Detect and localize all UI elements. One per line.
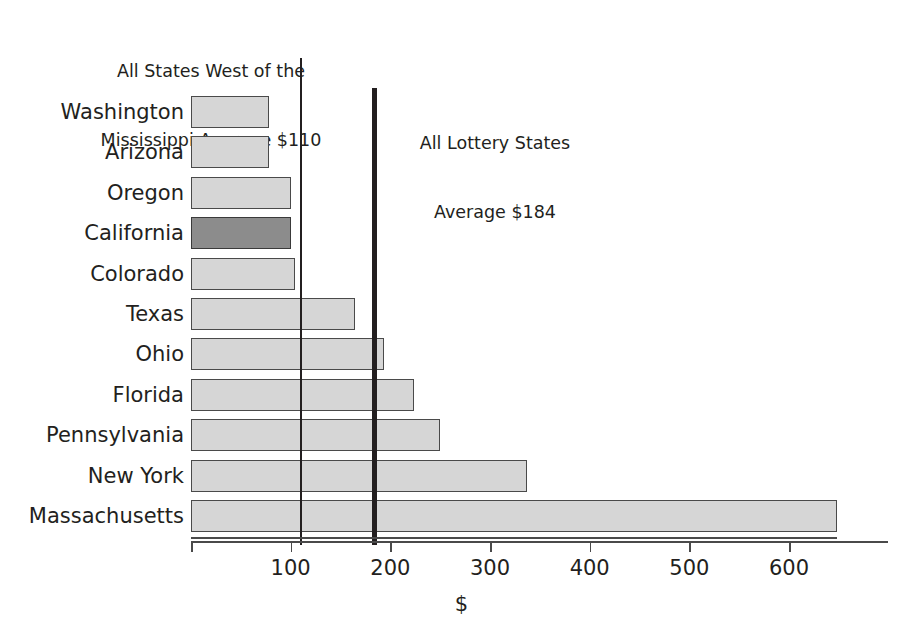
x-tick-100 xyxy=(291,542,293,552)
x-tick-origin xyxy=(191,542,193,552)
bar-california xyxy=(191,217,291,249)
x-axis-line xyxy=(191,541,888,543)
category-label-colorado: Colorado xyxy=(90,264,184,285)
category-label-texas: Texas xyxy=(126,304,184,325)
category-label-ohio: Ohio xyxy=(135,344,184,365)
category-axis-labels: WashingtonArizonaOregonCaliforniaColorad… xyxy=(0,90,184,540)
reference-line-west-average xyxy=(300,58,302,545)
bar-arizona xyxy=(191,136,269,168)
x-tick-600 xyxy=(789,542,791,552)
x-tick-label-600: 600 xyxy=(769,556,809,580)
category-label-california: California xyxy=(84,223,184,244)
bar-florida xyxy=(191,379,414,411)
bar-oregon xyxy=(191,177,291,209)
category-label-florida: Florida xyxy=(113,385,184,406)
category-label-new-york: New York xyxy=(88,466,184,487)
bar-colorado xyxy=(191,258,295,290)
category-label-massachusetts: Massachusetts xyxy=(29,506,184,527)
category-label-pennsylvania: Pennsylvania xyxy=(46,425,184,446)
x-axis-title: $ xyxy=(0,592,923,616)
bar-chart-figure: All States West of the Mississippi Avera… xyxy=(0,0,923,637)
category-label-oregon: Oregon xyxy=(107,183,184,204)
bar-new-york xyxy=(191,460,527,492)
category-label-arizona: Arizona xyxy=(105,142,184,163)
x-tick-label-300: 300 xyxy=(470,556,510,580)
x-tick-label-400: 400 xyxy=(570,556,610,580)
x-tick-label-100: 100 xyxy=(271,556,311,580)
x-tick-label-500: 500 xyxy=(669,556,709,580)
reference-line-lottery-average xyxy=(372,88,376,545)
x-tick-300 xyxy=(490,542,492,552)
bar-washington xyxy=(191,96,269,128)
bar-massachusetts xyxy=(191,500,837,532)
x-tick-200 xyxy=(390,542,392,552)
category-label-washington: Washington xyxy=(61,102,184,123)
bar-texas xyxy=(191,298,355,330)
bar-ohio xyxy=(191,338,384,370)
x-tick-500 xyxy=(689,542,691,552)
annotation-west-line1: All States West of the xyxy=(78,60,344,83)
bar-pennsylvania xyxy=(191,419,440,451)
axis-baseline-thick xyxy=(191,537,837,539)
plot-area xyxy=(191,90,891,540)
x-tick-label-200: 200 xyxy=(370,556,410,580)
x-tick-400 xyxy=(590,542,592,552)
